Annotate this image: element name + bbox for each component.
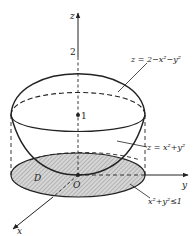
point-origin <box>76 173 80 177</box>
upper-surface-label: z = 2−x²−y² <box>130 55 181 64</box>
x-axis-label: x <box>17 226 22 236</box>
leader-upper-surface <box>118 63 147 92</box>
z-top-value: 2 <box>70 47 76 57</box>
x-axis <box>13 197 53 229</box>
point-center-1 <box>76 113 80 117</box>
leader-region <box>130 184 150 198</box>
origin-label: O <box>73 180 81 190</box>
region-name-label: D <box>33 173 41 183</box>
lower-surface-label: z = x²+y² <box>146 143 185 152</box>
z-axis-label: z <box>69 11 75 21</box>
paraboloid-region-diagram: z 2 1 z = 2−x²−y² z = x²+y² D O y x²+y²≤… <box>0 0 195 236</box>
y-axis-label: y <box>181 180 188 190</box>
region-inequality-label: x²+y²≤1 <box>148 197 182 206</box>
z-center-value: 1 <box>81 111 87 121</box>
